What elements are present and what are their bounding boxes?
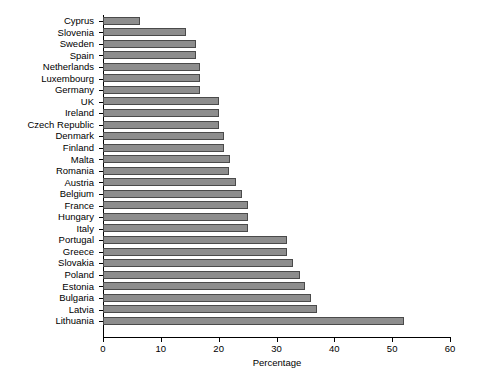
bar: [103, 17, 140, 25]
x-axis-tick-label: 20: [199, 343, 239, 354]
bar-row: [103, 211, 450, 223]
y-axis-label: Portugal: [0, 234, 96, 246]
bar-row: [103, 84, 450, 96]
bar-row: [103, 61, 450, 73]
y-axis-label: Malta: [0, 154, 96, 166]
bar-chart: CyprusSloveniaSwedenSpainNetherlandsLuxe…: [0, 0, 480, 377]
x-axis-tick: [334, 338, 335, 342]
x-axis-tick: [277, 338, 278, 342]
bar: [103, 190, 242, 198]
y-axis-label: Belgium: [0, 188, 96, 200]
bar: [103, 236, 287, 244]
bar: [103, 224, 248, 232]
bar-row: [103, 154, 450, 166]
x-axis-tick-label: 10: [141, 343, 181, 354]
bar: [103, 63, 200, 71]
y-axis-label: UK: [0, 96, 96, 108]
bar: [103, 40, 196, 48]
bar: [103, 97, 219, 105]
bar-row: [103, 292, 450, 304]
bar: [103, 282, 305, 290]
x-axis-tick-label: 40: [314, 343, 354, 354]
y-axis-label: Hungary: [0, 211, 96, 223]
x-axis-tick-label: 50: [372, 343, 412, 354]
y-axis-label: Lithuania: [0, 315, 96, 327]
bar: [103, 259, 293, 267]
bar: [103, 305, 317, 313]
bar-row: [103, 38, 450, 50]
y-axis-label: Germany: [0, 84, 96, 96]
bar-row: [103, 269, 450, 281]
bar: [103, 248, 287, 256]
y-axis-label: Bulgaria: [0, 292, 96, 304]
bar-rows: [103, 15, 450, 327]
bar-row: [103, 142, 450, 154]
y-axis-label: Finland: [0, 142, 96, 154]
x-axis-tick: [103, 338, 104, 342]
bar: [103, 201, 248, 209]
bar-row: [103, 223, 450, 235]
bar-row: [103, 200, 450, 212]
y-axis-label: Cyprus: [0, 15, 96, 27]
y-axis-label: Italy: [0, 223, 96, 235]
bar: [103, 28, 186, 36]
x-axis-tick-label: 30: [257, 343, 297, 354]
y-axis-label: France: [0, 200, 96, 212]
bar-row: [103, 165, 450, 177]
bar: [103, 144, 224, 152]
bar: [103, 132, 224, 140]
bar-row: [103, 177, 450, 189]
y-axis-label: Sweden: [0, 38, 96, 50]
y-axis-label: Austria: [0, 177, 96, 189]
bar-row: [103, 188, 450, 200]
y-axis-label: Poland: [0, 269, 96, 281]
plot-area: [103, 15, 450, 337]
bar-row: [103, 281, 450, 293]
bar: [103, 294, 311, 302]
bar-row: [103, 96, 450, 108]
bar-row: [103, 107, 450, 119]
bar-row: [103, 73, 450, 85]
y-axis-label: Greece: [0, 246, 96, 258]
bar-row: [103, 246, 450, 258]
x-axis-tick: [161, 338, 162, 342]
y-axis-label: Spain: [0, 50, 96, 62]
bar: [103, 74, 200, 82]
bar-row: [103, 315, 450, 327]
bar: [103, 167, 229, 175]
x-axis-tick: [450, 338, 451, 342]
bar: [103, 51, 196, 59]
y-axis-label: Slovenia: [0, 27, 96, 39]
bar: [103, 317, 404, 325]
bar-row: [103, 50, 450, 62]
y-axis-label: Denmark: [0, 130, 96, 142]
bar: [103, 213, 248, 221]
bar-row: [103, 119, 450, 131]
y-axis-label: Estonia: [0, 281, 96, 293]
bar: [103, 155, 230, 163]
y-axis-label: Luxembourg: [0, 73, 96, 85]
x-axis-tick: [392, 338, 393, 342]
y-axis-label: Romania: [0, 165, 96, 177]
bar: [103, 109, 219, 117]
bar-row: [103, 27, 450, 39]
bar: [103, 86, 200, 94]
y-axis-label: Slovakia: [0, 257, 96, 269]
y-axis-category-labels: CyprusSloveniaSwedenSpainNetherlandsLuxe…: [0, 15, 96, 327]
bar-row: [103, 234, 450, 246]
y-axis-label: Ireland: [0, 107, 96, 119]
bar-row: [103, 304, 450, 316]
x-axis-tick-label: 0: [83, 343, 123, 354]
y-axis-label: Netherlands: [0, 61, 96, 73]
x-axis-tick-label: 60: [430, 343, 470, 354]
bar: [103, 178, 236, 186]
bar: [103, 271, 300, 279]
y-axis-label: Latvia: [0, 304, 96, 316]
x-axis-tick: [219, 338, 220, 342]
y-axis-label: Czech Republic: [0, 119, 96, 131]
bar-row: [103, 130, 450, 142]
bar-row: [103, 15, 450, 27]
x-axis-title: Percentage: [103, 357, 451, 368]
bar: [103, 121, 219, 129]
bar-row: [103, 257, 450, 269]
